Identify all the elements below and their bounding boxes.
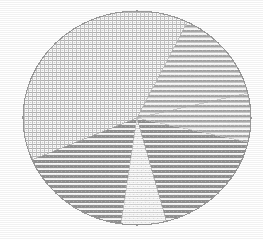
halftone-grain <box>0 0 263 240</box>
pie-chart-figure: Dithered halftone pie chart with five we… <box>0 0 263 240</box>
pie-chart-canvas <box>0 0 263 240</box>
